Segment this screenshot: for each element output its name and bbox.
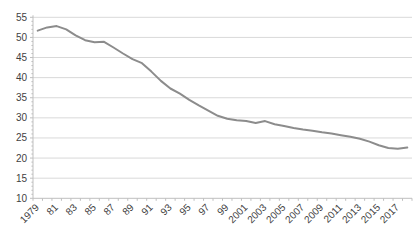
x-tick-label: 87: [101, 201, 117, 217]
y-tick-label: 55: [16, 12, 28, 23]
y-tick-label: 45: [16, 52, 28, 63]
x-tick-label: 2001: [226, 201, 250, 225]
y-tick-label: 25: [16, 132, 28, 143]
x-tick-label: 81: [44, 201, 60, 217]
x-tick-label: 89: [120, 201, 136, 217]
x-tick-label: 2017: [378, 201, 402, 225]
y-tick-label: 30: [16, 112, 28, 123]
x-tick-label: 97: [196, 201, 212, 217]
x-tick-label: 95: [177, 201, 193, 217]
x-tick-label: 2013: [340, 201, 364, 225]
chart-canvas: 1015202530354045505519798183858789919395…: [0, 0, 419, 241]
x-tick-label: 85: [82, 201, 98, 217]
y-tick-label: 15: [16, 173, 28, 184]
y-tick-label: 50: [16, 32, 28, 43]
x-tick-label: 1979: [18, 201, 42, 225]
x-tick-label: 2011: [321, 201, 344, 224]
y-tick-label: 20: [16, 153, 28, 164]
x-tick-label: 2005: [264, 201, 288, 225]
y-tick-label: 40: [16, 72, 28, 83]
x-tick-label: 2009: [302, 201, 326, 225]
x-tick-label: 2003: [245, 201, 269, 225]
y-tick-label: 10: [16, 193, 28, 204]
line-chart: 1015202530354045505519798183858789919395…: [0, 0, 419, 241]
x-tick-label: 91: [139, 201, 155, 217]
x-tick-label: 2007: [283, 201, 307, 225]
x-tick-label: 93: [158, 201, 174, 217]
x-tick-label: 2015: [359, 201, 383, 225]
data-series-line: [38, 26, 408, 149]
x-tick-label: 83: [63, 201, 79, 217]
y-tick-label: 35: [16, 92, 28, 103]
